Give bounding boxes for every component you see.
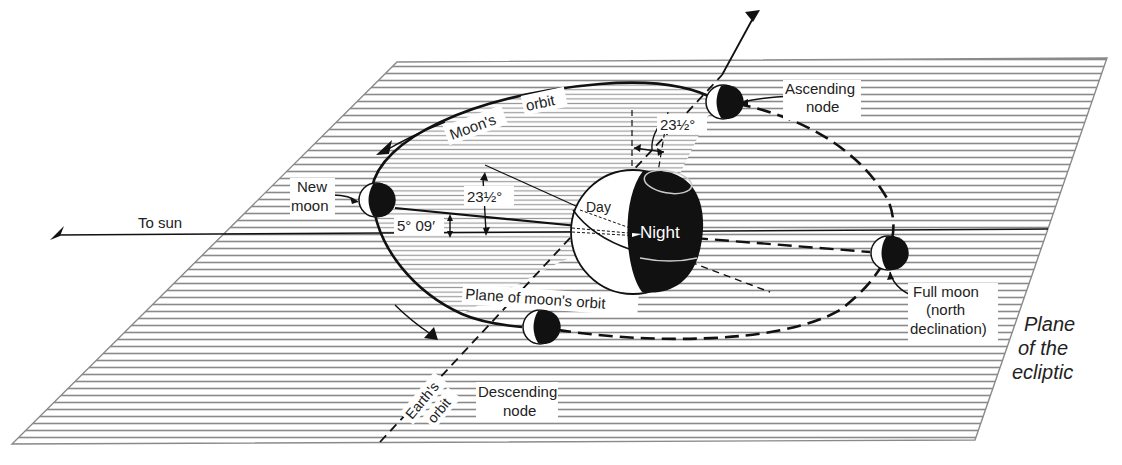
descending-node-moon [523, 310, 561, 344]
label-ascending-node-1: Ascending [785, 80, 855, 97]
label-angle-5-09: 5° 09′ [397, 217, 435, 234]
label-full-moon-3: declination) [910, 320, 987, 337]
label-descending-node-1: Descending [478, 383, 557, 400]
label-plane-ecliptic-1: Plane [1024, 313, 1075, 335]
label-to-sun: To sun [138, 214, 182, 231]
label-plane-ecliptic-3: ecliptic [1012, 361, 1073, 383]
moon-orbit-diagram: Moon's orbit New moon To sun 5° 09′ 23½°… [0, 0, 1122, 465]
label-new-moon-1: New [297, 178, 327, 195]
new-moon [359, 183, 396, 217]
label-day: Day [586, 199, 611, 215]
label-angle-23-top: 23½° [660, 116, 695, 133]
full-moon [871, 236, 909, 270]
ascending-node-moon [706, 85, 744, 119]
label-night: Night [640, 223, 680, 242]
label-angle-23-left: 23½° [467, 188, 502, 205]
label-full-moon-2: (north [926, 301, 965, 318]
label-new-moon-2: moon [291, 197, 329, 214]
label-descending-node-2: node [503, 402, 536, 419]
label-plane-ecliptic-2: of the [1018, 337, 1068, 359]
label-ascending-node-2: node [806, 98, 839, 115]
label-full-moon-1: Full moon [913, 283, 979, 300]
